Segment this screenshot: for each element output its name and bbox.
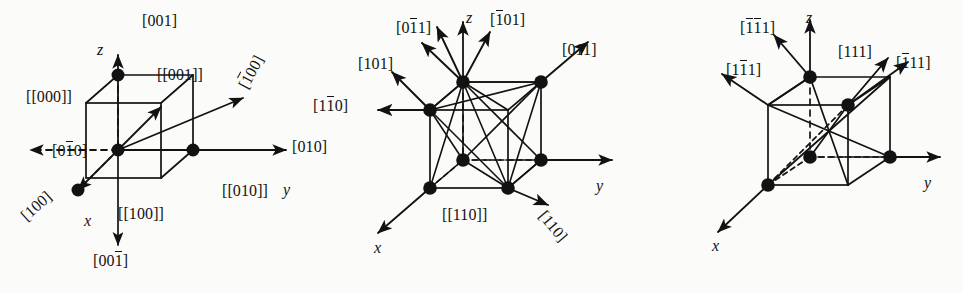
label-1bar11-overbar: 1	[740, 62, 748, 78]
node-left-corner	[423, 103, 437, 117]
node-top-face-centre	[456, 75, 470, 89]
label-direction-111: [111]	[838, 44, 872, 60]
node-back-right	[534, 75, 548, 89]
label-direction-0bar10: [010]	[52, 143, 87, 159]
vector-1bar10-up	[392, 72, 430, 110]
axis-x-negative	[118, 107, 161, 150]
label-0bar11-tail: 1]	[418, 19, 432, 36]
label-bar1bar11-tail: 1]	[762, 19, 776, 36]
label-1bar10-tail: 0]	[335, 97, 349, 114]
node-mid	[803, 150, 817, 164]
diagonal-hidden-a	[768, 105, 848, 185]
edge-link-a	[768, 77, 810, 105]
node-100	[72, 184, 85, 197]
cube-hidden-edges	[810, 77, 848, 157]
vector-bar100	[118, 98, 243, 150]
label-direction-bar111: [111]	[896, 55, 931, 71]
label-direction-1bar11: [111]	[726, 62, 761, 78]
label-direction-001: [001]	[142, 13, 177, 29]
vector-bar101	[463, 32, 490, 82]
vector-bar1bar11	[774, 35, 810, 77]
label-1bar11-tail: 1]	[748, 61, 762, 78]
label-direction-1bar10: [110]	[313, 98, 348, 114]
node-110	[501, 181, 515, 195]
node-top-right	[841, 98, 855, 112]
node-010	[187, 144, 200, 157]
axis-label-x: x	[374, 240, 381, 256]
label-1bar11-head: [1	[726, 61, 740, 78]
panel-cubic-110: [011] z [101] [011] [101] [110] y [110] …	[300, 0, 640, 293]
label-direction-bar101: [101]	[490, 12, 525, 28]
node-right	[534, 153, 548, 167]
web-i	[430, 110, 463, 160]
vector-1bar11	[722, 74, 768, 105]
label-node-010: [[010]]	[222, 183, 268, 199]
cube-edge-br	[848, 157, 890, 185]
label-direction-011: [011]	[562, 42, 597, 58]
label-direction-0bar11: [011]	[396, 20, 431, 36]
label-bar1bar11-overbar-2: 1	[754, 20, 762, 36]
label-bar1bar11-overbar-1: 1	[745, 20, 753, 36]
label-00bar1-overbar: 1	[115, 253, 123, 269]
axis-x-positive	[718, 185, 768, 232]
axis-label-y: y	[283, 182, 290, 198]
panel-a-drawing	[0, 0, 320, 293]
axis-label-z: z	[806, 10, 812, 26]
cube-front-face	[86, 103, 161, 178]
panel-cubic-111: [111] z [111] [111] [111] y x	[640, 0, 963, 293]
label-bar111-tail: 11]	[910, 54, 931, 71]
label-1bar10-head: [1	[313, 97, 327, 114]
label-direction-bar1bar11: [111]	[740, 20, 775, 36]
web-e	[463, 82, 508, 188]
label-0bar11-overbar: 1	[410, 20, 418, 36]
vector-101	[422, 43, 463, 82]
label-1bar10-overbar: 1	[327, 98, 335, 114]
axis-label-y: y	[596, 178, 603, 194]
label-node-000: [[000]]	[26, 89, 72, 105]
label-node-110: [[110]]	[442, 207, 487, 223]
crystal-direction-figure: [001] z [[001]] [[000]] [010] [010] [[01…	[0, 0, 963, 293]
label-direction-101: [101]	[358, 56, 393, 72]
node-001	[112, 69, 125, 82]
cube-back-edges	[810, 77, 890, 157]
panel-cubic-100: [001] z [[001]] [[000]] [010] [010] [[01…	[0, 0, 320, 293]
axis-label-x: x	[712, 238, 719, 254]
label-0bar11-head: [0	[396, 19, 410, 36]
label-0bar10-overbar: 1	[66, 143, 74, 159]
axis-x-positive	[378, 188, 430, 233]
axis-label-x: x	[84, 213, 91, 229]
label-bar101-tail: 01]	[504, 11, 526, 28]
diagonal-hidden-c	[768, 157, 810, 185]
vector-0bar11	[437, 27, 463, 82]
label-0bar10-head: [0	[52, 142, 66, 159]
axis-label-z: z	[97, 42, 103, 58]
panel-c-drawing	[640, 0, 963, 293]
node-000	[112, 144, 125, 157]
label-bar101-overbar: 1	[495, 12, 503, 28]
label-node-001: [[001]]	[157, 67, 203, 83]
axis-label-z: z	[466, 10, 472, 26]
node-right	[883, 150, 897, 164]
label-bar111-overbar: 1	[901, 55, 909, 71]
node-centre	[456, 153, 470, 167]
node-top-left	[803, 70, 817, 84]
label-00bar1-tail: ]	[123, 252, 128, 269]
node-front-left	[423, 181, 437, 195]
node-front-left	[761, 178, 775, 192]
label-00bar1-head: [00	[93, 252, 115, 269]
label-node-100: [[100]]	[118, 206, 164, 222]
axis-label-y: y	[924, 175, 931, 191]
label-direction-00bar1: [001]	[93, 253, 128, 269]
diagonal-d	[810, 105, 848, 157]
label-0bar10-tail: 0]	[74, 142, 88, 159]
